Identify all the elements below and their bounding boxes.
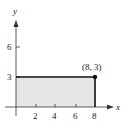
x-axis-label: x — [115, 102, 120, 112]
x-tick-label-2: 2 — [33, 111, 38, 121]
point-marker — [93, 75, 97, 79]
coordinate-diagram: x y 2 4 6 8 6 3 (8, 3) — [0, 0, 121, 123]
x-tick-label-8: 8 — [92, 111, 97, 121]
shaded-rectangle — [16, 77, 95, 107]
y-tick-label-6: 6 — [7, 42, 12, 52]
y-tick-label-3: 3 — [7, 72, 12, 82]
y-axis-arrow-icon — [14, 20, 19, 27]
x-tick-label-6: 6 — [73, 111, 78, 121]
y-axis-label: y — [12, 6, 17, 16]
x-tick-label-4: 4 — [52, 111, 57, 121]
x-axis-arrow-icon — [107, 105, 114, 110]
point-label: (8, 3) — [82, 62, 102, 72]
